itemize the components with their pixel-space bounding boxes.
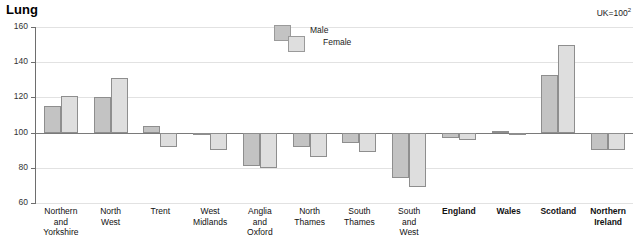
y-tick-label-60: 60 bbox=[2, 197, 28, 207]
x-label-england: England bbox=[432, 206, 486, 217]
x-label-line: West bbox=[84, 217, 138, 228]
x-label-line: Northern bbox=[581, 206, 635, 217]
bar-male-northern-and-yorkshire bbox=[44, 106, 61, 132]
x-label-line: Thames bbox=[283, 217, 337, 228]
x-label-south-and-west: SouthandWest bbox=[382, 206, 436, 238]
x-label-line: Ireland bbox=[581, 217, 635, 228]
x-label-northern-and-yorkshire: NorthernandYorkshire bbox=[34, 206, 88, 238]
x-label-line: Trent bbox=[134, 206, 188, 217]
bar-female-north-thames bbox=[310, 133, 327, 158]
bar-female-wales bbox=[509, 133, 526, 135]
x-label-west-midlands: WestMidlands bbox=[183, 206, 237, 227]
x-label-scotland: Scotland bbox=[532, 206, 586, 217]
x-label-line: and bbox=[233, 217, 287, 228]
x-label-north-thames: NorthThames bbox=[283, 206, 337, 227]
y-tick-label-140: 140 bbox=[2, 56, 28, 66]
bar-female-west-midlands bbox=[210, 133, 227, 151]
x-label-line: Anglia bbox=[233, 206, 287, 217]
bar-male-wales bbox=[492, 131, 509, 133]
legend-label-female: Female bbox=[323, 37, 351, 47]
legend-label-male: Male bbox=[310, 25, 328, 35]
bar-male-south-thames bbox=[342, 133, 359, 144]
x-label-line: Scotland bbox=[532, 206, 586, 217]
bar-male-northern-ireland bbox=[591, 133, 608, 151]
bar-male-scotland bbox=[541, 75, 558, 133]
x-label-line: West bbox=[183, 206, 237, 217]
bar-female-south-and-west bbox=[409, 133, 426, 188]
bar-female-northern-ireland bbox=[608, 133, 625, 151]
uk-baseline-note-footnote: 2 bbox=[628, 7, 631, 13]
uk-baseline-note-text: UK=100 bbox=[597, 8, 628, 18]
x-axis-labels: NorthernandYorkshireNorthWestTrentWestMi… bbox=[36, 206, 633, 248]
page-title: Lung bbox=[6, 2, 38, 17]
x-label-line: England bbox=[432, 206, 486, 217]
bar-male-south-and-west bbox=[392, 133, 409, 179]
x-label-line: Thames bbox=[333, 217, 387, 228]
x-label-wales: Wales bbox=[482, 206, 536, 217]
bar-female-north-west bbox=[111, 78, 128, 133]
bar-female-scotland bbox=[558, 45, 575, 133]
x-label-south-thames: SouthThames bbox=[333, 206, 387, 227]
x-label-line: North bbox=[283, 206, 337, 217]
x-label-northern-ireland: NorthernIreland bbox=[581, 206, 635, 227]
bar-male-north-west bbox=[94, 97, 111, 132]
x-label-north-west: NorthWest bbox=[84, 206, 138, 227]
legend-swatch-female bbox=[288, 36, 305, 52]
bar-female-anglia-and-oxford bbox=[260, 133, 277, 168]
y-tick-label-160: 160 bbox=[2, 21, 28, 31]
x-label-line: West bbox=[382, 227, 436, 238]
x-label-line: Wales bbox=[482, 206, 536, 217]
x-label-line: South bbox=[333, 206, 387, 217]
bar-male-england bbox=[442, 133, 459, 138]
lung-mortality-chart: Lung UK=1002 6080100120140160 Male Femal… bbox=[0, 0, 637, 248]
bar-male-west-midlands bbox=[193, 133, 210, 135]
bar-female-england bbox=[459, 133, 476, 140]
bar-female-northern-and-yorkshire bbox=[61, 96, 78, 133]
uk-baseline-note: UK=1002 bbox=[597, 7, 631, 18]
x-label-line: South bbox=[382, 206, 436, 217]
y-tick-label-120: 120 bbox=[2, 91, 28, 101]
x-label-line: and bbox=[34, 217, 88, 228]
bar-female-trent bbox=[160, 133, 177, 147]
gridline-60 bbox=[36, 203, 633, 204]
x-label-line: Midlands bbox=[183, 217, 237, 228]
y-tick-label-80: 80 bbox=[2, 162, 28, 172]
bar-male-anglia-and-oxford bbox=[243, 133, 260, 166]
x-label-line: North bbox=[84, 206, 138, 217]
x-label-trent: Trent bbox=[134, 206, 188, 217]
y-tick-label-100: 100 bbox=[2, 127, 28, 137]
bar-male-trent bbox=[143, 126, 160, 133]
x-label-line: Northern bbox=[34, 206, 88, 217]
x-label-line: Oxford bbox=[233, 227, 287, 238]
bar-male-north-thames bbox=[293, 133, 310, 147]
legend: Male Female bbox=[274, 25, 394, 59]
x-label-line: Yorkshire bbox=[34, 227, 88, 238]
x-label-anglia-and-oxford: AngliaandOxford bbox=[233, 206, 287, 238]
bar-female-south-thames bbox=[359, 133, 376, 152]
x-label-line: and bbox=[382, 217, 436, 228]
